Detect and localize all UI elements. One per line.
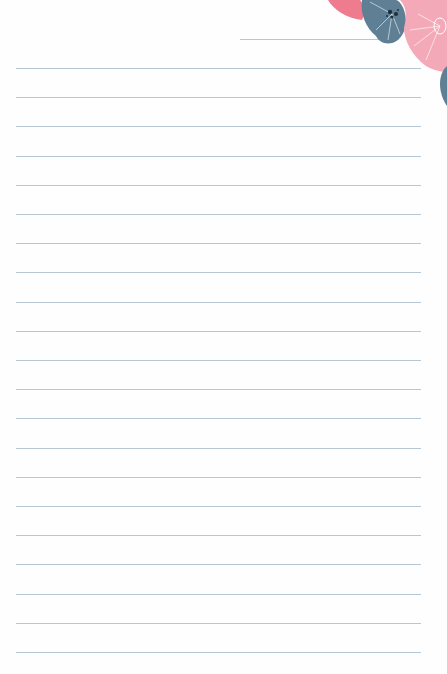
ruled-line: [16, 360, 421, 361]
ruled-line: [16, 214, 421, 215]
ruled-line: [16, 623, 421, 624]
ruled-line: [16, 594, 421, 595]
ruled-line: [16, 535, 421, 536]
ruled-line: [16, 126, 421, 127]
ruled-line: [16, 272, 421, 273]
ruled-line: [16, 477, 421, 478]
ruled-line: [16, 652, 421, 653]
ruled-line: [16, 389, 421, 390]
ruled-line: [16, 243, 421, 244]
ruled-line: [16, 185, 421, 186]
ruled-line: [16, 564, 421, 565]
ruled-line: [16, 506, 421, 507]
ruled-line: [16, 448, 421, 449]
ruled-line: [16, 418, 421, 419]
ruled-line: [16, 331, 421, 332]
ruled-line: [16, 302, 421, 303]
ruled-line: [16, 156, 421, 157]
floral-decoration-icon: [300, 0, 447, 110]
